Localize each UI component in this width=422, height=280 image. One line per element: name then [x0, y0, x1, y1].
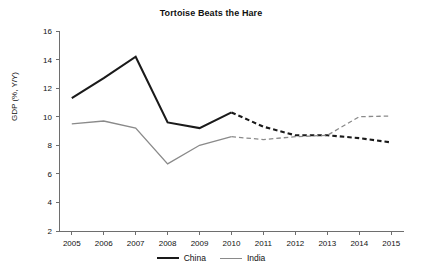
y-tick-label: 12 — [43, 84, 52, 93]
x-tick-label: 2012 — [286, 239, 304, 248]
series-line-china-actual — [72, 57, 232, 128]
legend-item-china[interactable]: China — [157, 254, 206, 263]
series-line-india-actual — [72, 121, 232, 164]
data-series-group — [72, 57, 391, 164]
legend-swatch-china — [157, 257, 179, 259]
x-tick-label: 2006 — [95, 239, 113, 248]
x-tick-label: 2007 — [127, 239, 145, 248]
x-tick-label: 2011 — [255, 239, 273, 248]
legend-swatch-india — [220, 258, 242, 259]
series-line-china-forecast — [232, 112, 392, 142]
x-tick-label: 2005 — [63, 239, 81, 248]
y-tick-label: 14 — [43, 56, 52, 65]
legend-label: China — [184, 254, 206, 263]
x-tick-label: 2013 — [318, 239, 336, 248]
x-tick-label: 2008 — [159, 239, 177, 248]
plot-area: 246810121416 200520062007200820092010201… — [0, 0, 422, 280]
legend-label: India — [247, 254, 265, 263]
y-axis-ticks: 246810121416 — [43, 27, 59, 236]
x-tick-label: 2010 — [223, 239, 241, 248]
y-tick-label: 16 — [43, 27, 52, 36]
chart-legend: ChinaIndia — [0, 254, 422, 263]
x-axis-ticks: 2005200620072008200920102011201220132014… — [63, 231, 401, 248]
x-tick-label: 2015 — [382, 239, 400, 248]
y-tick-label: 10 — [43, 113, 52, 122]
chart-container: Tortoise Beats the Hare GDP (%, Y/Y) 246… — [0, 0, 422, 280]
y-tick-label: 4 — [48, 198, 53, 207]
x-tick-label: 2009 — [191, 239, 209, 248]
y-tick-label: 2 — [48, 227, 53, 236]
legend-item-india[interactable]: India — [220, 254, 265, 263]
y-tick-label: 6 — [48, 170, 53, 179]
x-tick-label: 2014 — [350, 239, 368, 248]
y-tick-label: 8 — [48, 141, 53, 150]
